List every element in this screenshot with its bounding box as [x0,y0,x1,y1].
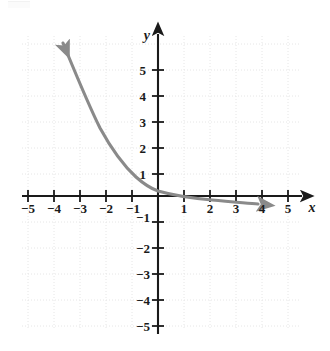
y-tick-label-neg-4: −4 [136,293,150,308]
y-tick-label-neg-3: −3 [136,267,150,282]
y-tick-label-pos-3: 3 [140,115,147,130]
y-tick-label-pos-2: 2 [140,141,147,156]
y-tick-label-neg-5: −5 [136,319,150,334]
y-axis-label: y [142,28,151,43]
y-tick-label-pos-4: 4 [140,89,147,104]
grid [22,36,300,330]
x-axis-label: x [308,200,316,215]
y-tick-label-pos-5: 5 [140,63,147,78]
x-tick-label-neg-5: −5 [21,201,35,216]
y-tick-label-pos-1: 1 [140,167,147,182]
x-tick-label-pos-2: 2 [207,201,214,216]
screenshot-root: −5 −4 −3 −2 −1 1 2 3 4 5 5 4 3 2 1 −1 −2… [0,0,330,351]
x-tick-label-pos-4: 4 [259,201,266,216]
decaying-exponential-curve [63,43,258,204]
x-tick-label-pos-5: 5 [285,201,292,216]
x-tick-label-pos-1: 1 [181,201,188,216]
y-tick-label-neg-2: −2 [136,241,150,256]
x-tick-label-neg-4: −4 [47,201,61,216]
x-tick-label-pos-3: 3 [233,201,240,216]
coordinate-plane-svg: −5 −4 −3 −2 −1 1 2 3 4 5 5 4 3 2 1 −1 −2… [0,0,330,351]
y-tick-label-neg-1: −1 [136,210,150,225]
x-tick-label-neg-2: −2 [99,201,113,216]
x-tick-label-neg-3: −3 [73,201,87,216]
graph-figure: −5 −4 −3 −2 −1 1 2 3 4 5 5 4 3 2 1 −1 −2… [0,0,330,351]
